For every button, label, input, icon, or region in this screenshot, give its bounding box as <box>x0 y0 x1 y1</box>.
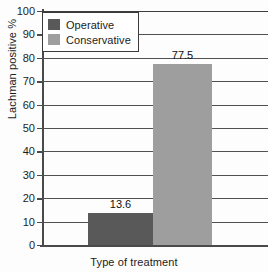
bar-value-label: 13.6 <box>110 198 131 210</box>
y-axis-tick-label: 30 <box>23 169 35 181</box>
y-axis-tick-label: 20 <box>23 192 35 204</box>
y-axis-tick-label: 90 <box>23 28 35 40</box>
bar-value-label: 77.5 <box>172 49 193 61</box>
y-axis-tick-mark <box>37 105 42 106</box>
bar-conservative <box>153 64 212 245</box>
x-axis-title: Type of treatment <box>0 256 268 268</box>
x-axis-line <box>40 245 268 247</box>
legend-item-label: Operative <box>66 19 114 31</box>
bar-chart-figure: Lachman positive % 010203040506070809010… <box>0 0 268 272</box>
gridline <box>42 58 268 59</box>
chart-legend: OperativeConservative <box>42 12 139 52</box>
y-axis-tick-label: 0 <box>29 239 35 251</box>
y-axis-tick-label: 40 <box>23 145 35 157</box>
y-axis-tick-mark <box>37 58 42 59</box>
y-axis-tick-label: 70 <box>23 75 35 87</box>
y-axis-tick-mark <box>37 175 42 176</box>
y-axis-title: Lachman positive % <box>5 0 19 149</box>
y-axis-tick-label: 100 <box>17 5 35 17</box>
y-axis-tick-mark <box>37 81 42 82</box>
y-axis-tick-mark <box>37 151 42 152</box>
y-axis-tick-label: 50 <box>23 122 35 134</box>
y-axis-tick-mark <box>37 128 42 129</box>
legend-item: Conservative <box>48 32 131 47</box>
y-axis-tick-mark <box>37 222 42 223</box>
bar-operative <box>88 213 153 245</box>
legend-item-label: Conservative <box>66 34 131 46</box>
y-axis-tick-mark <box>37 198 42 199</box>
y-axis-tick-mark <box>37 245 42 246</box>
legend-item: Operative <box>48 17 131 32</box>
legend-swatch-icon <box>48 34 60 45</box>
y-axis-tick-label: 80 <box>23 52 35 64</box>
y-axis-tick-label: 10 <box>23 216 35 228</box>
legend-swatch-icon <box>48 19 60 30</box>
y-axis-tick-label: 60 <box>23 99 35 111</box>
